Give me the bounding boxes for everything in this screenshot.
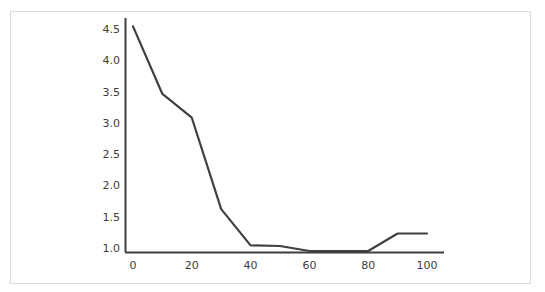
x-tick-label-60: 60 [302,259,316,272]
x-tick-label-40: 40 [244,259,258,272]
data-series-line [133,26,427,251]
x-tick-label-100: 100 [417,259,438,272]
chart-figure: 1.0 1.5 2.0 2.5 3.0 3.5 4.0 4.5 0 20 40 … [0,0,545,292]
line-chart-plot: 1.0 1.5 2.0 2.5 3.0 3.5 4.0 4.5 0 20 40 … [0,0,545,292]
x-tick-label-0: 0 [130,259,137,272]
y-tick-label-1-0: 1.0 [103,242,121,255]
y-tick-label-4-5: 4.5 [103,23,121,36]
y-tick-label-2-0: 2.0 [103,179,121,192]
x-tick-label-80: 80 [361,259,375,272]
y-tick-label-3-0: 3.0 [103,117,121,130]
y-tick-label-3-5: 3.5 [103,86,121,99]
figure-bottom-strip [10,286,531,292]
y-tick-label-4-0: 4.0 [103,54,121,67]
y-tick-label-1-5: 1.5 [103,211,121,224]
y-tick-label-2-5: 2.5 [103,148,121,161]
x-tick-label-20: 20 [185,259,199,272]
